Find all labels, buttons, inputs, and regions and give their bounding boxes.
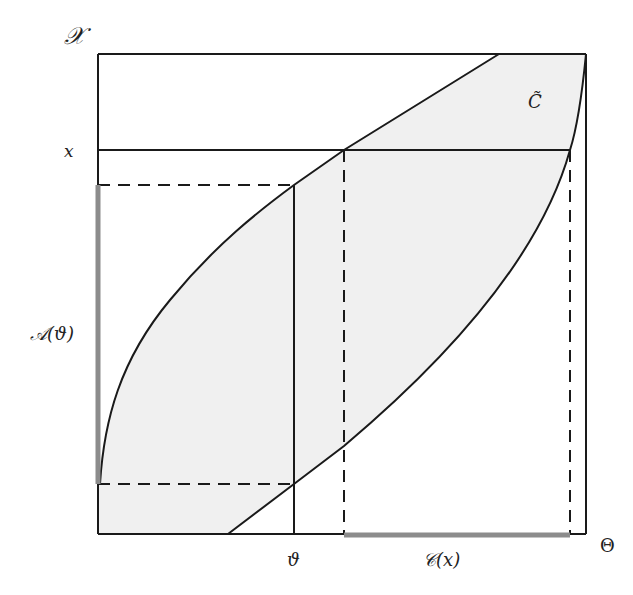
acceptance-region-label: 𝒜(ϑ) xyxy=(30,323,74,344)
confidence-set-label: 𝒞(x) xyxy=(423,549,460,570)
diagram-canvas: 𝒳 x 𝒜(ϑ) C̃ ϑ 𝒞(x) Θ xyxy=(0,0,633,595)
x-value-label: x xyxy=(64,141,74,161)
region-label: C̃ xyxy=(528,91,542,112)
y-axis-label: 𝒳 xyxy=(64,22,92,50)
shaded-region xyxy=(98,54,586,534)
theta-value-label: ϑ xyxy=(287,549,300,570)
x-axis-label: Θ xyxy=(600,535,615,556)
